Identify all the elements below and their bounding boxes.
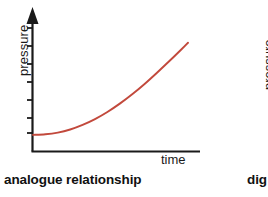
data-series-line	[33, 43, 188, 135]
y-axis-arrow-icon	[27, 7, 39, 24]
caption-analogue: analogue relationship	[4, 172, 141, 187]
y-axis-label-digital: pressure	[261, 39, 268, 90]
caption-digital: dig	[247, 172, 268, 187]
chart-panel-analogue: pressure time	[0, 0, 220, 165]
plot-area	[0, 0, 220, 165]
